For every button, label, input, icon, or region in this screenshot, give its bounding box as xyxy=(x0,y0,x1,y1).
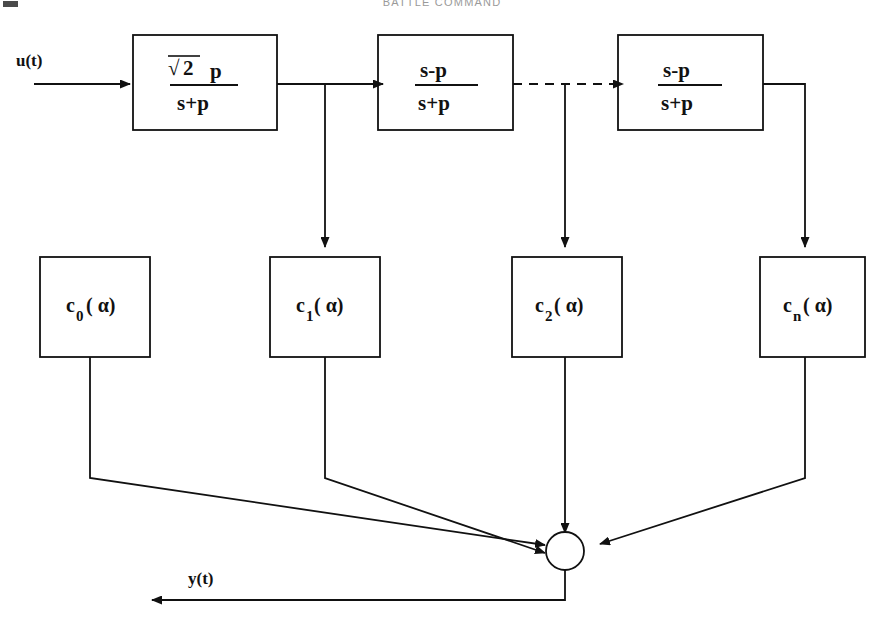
filter-block-0-numerator: 2 xyxy=(183,56,194,80)
filter-block-laguerre-first[interactable] xyxy=(133,35,277,130)
coef-n-subscript: n xyxy=(793,308,802,324)
filter-block-0-numerator-suffix: p xyxy=(210,59,222,83)
coef-n-symbol: c xyxy=(783,294,792,316)
coef-1-subscript: 1 xyxy=(306,308,314,324)
input-signal-label: u(t) xyxy=(16,51,42,70)
coef-0-argument: ( α) xyxy=(86,294,115,317)
diagram-page: BATTLE COMMAND u(t) √ 2 p s+p s-p s+p s-… xyxy=(0,0,884,640)
filter-block-0-denominator: s+p xyxy=(177,91,209,115)
filter-block-allpass-1[interactable] xyxy=(378,35,513,130)
filter-block-1-denominator: s+p xyxy=(418,91,450,115)
sum-input-from-cn xyxy=(600,357,805,544)
coef-1-symbol: c xyxy=(296,294,305,316)
block-diagram-canvas: u(t) √ 2 p s+p s-p s+p s-p s+p xyxy=(0,0,884,640)
coef-0-symbol: c xyxy=(66,294,75,316)
coef-2-argument: ( α) xyxy=(554,294,583,317)
sum-input-from-c0 xyxy=(90,357,545,545)
summing-junction[interactable] xyxy=(546,532,584,570)
filter-block-2-denominator: s+p xyxy=(661,91,693,115)
coef-n-argument: ( α) xyxy=(803,294,832,317)
tap-line-to-coef-n xyxy=(763,84,805,247)
output-path xyxy=(152,570,565,600)
sum-input-from-c1 xyxy=(325,357,545,553)
coef-0-subscript: 0 xyxy=(76,308,84,324)
filter-block-1-numerator: s-p xyxy=(420,58,447,82)
filter-block-2-numerator: s-p xyxy=(663,58,690,82)
coef-1-argument: ( α) xyxy=(314,294,343,317)
filter-block-allpass-n[interactable] xyxy=(618,35,763,130)
coef-2-subscript: 2 xyxy=(545,308,553,324)
sqrt-radical-icon: √ xyxy=(168,56,180,80)
coef-2-symbol: c xyxy=(535,294,544,316)
output-signal-label: y(t) xyxy=(188,569,213,588)
